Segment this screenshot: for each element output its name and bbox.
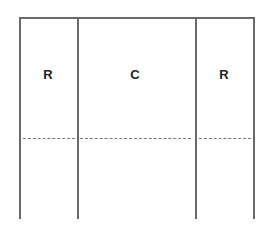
dashed-line-left [23,138,75,139]
dashed-line-right [199,138,251,139]
left-divider-line [77,17,79,219]
column-label-left: R [43,67,52,82]
dashed-line-center [80,138,191,139]
right-edge-line [253,17,255,219]
right-divider-line [195,17,197,219]
column-label-right: R [219,67,228,82]
left-edge-line [19,17,21,219]
top-border [19,17,254,19]
column-label-center: C [130,67,139,82]
